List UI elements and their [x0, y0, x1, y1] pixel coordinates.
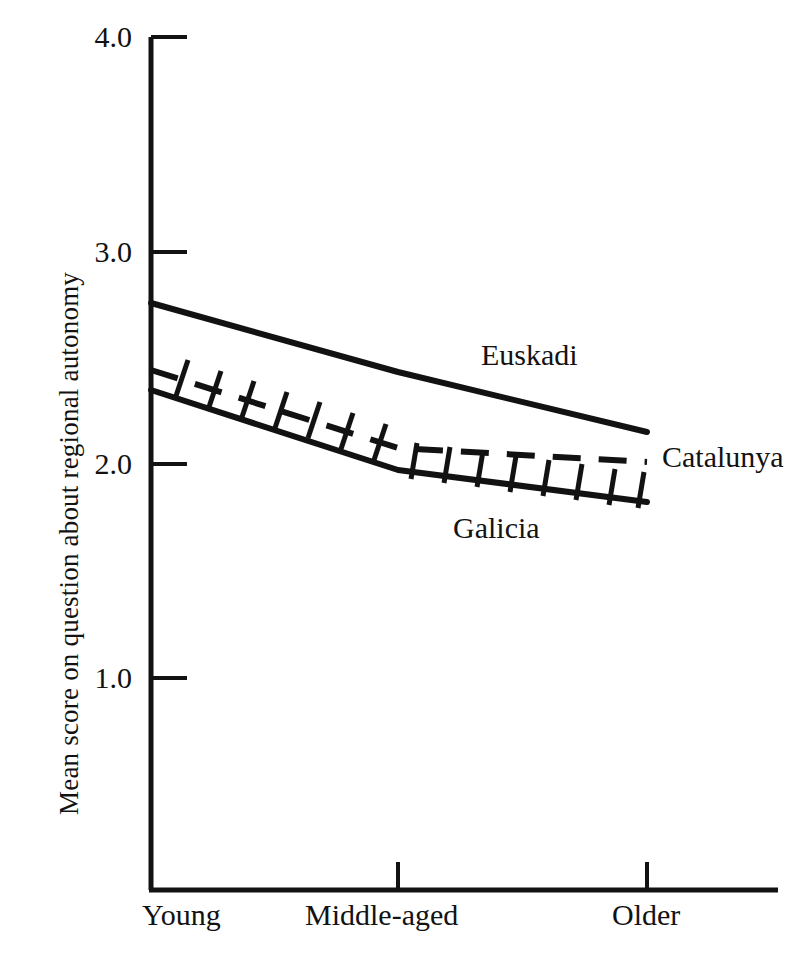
y-tick-label-3: 3.0 — [32, 237, 132, 267]
y-tick-label-2: 2.0 — [32, 449, 132, 479]
series-label-catalunya: Catalunya — [662, 441, 784, 473]
series-label-euskadi: Euskadi — [481, 339, 578, 371]
y-tick-label-4: 4.0 — [32, 22, 132, 52]
series-label-galicia: Galicia — [453, 512, 540, 544]
x-tick-label-young: Young — [142, 899, 221, 931]
x-tick-label-older: Older — [612, 899, 680, 931]
series-hatch-marks-galicia — [176, 360, 644, 508]
x-tick-label-middle-aged: Middle-aged — [305, 899, 458, 931]
series-line-galicia — [151, 390, 647, 502]
y-tick-label-1: 1.0 — [32, 663, 132, 693]
line-chart-figure: Mean score on question about regional au… — [0, 0, 807, 959]
y-axis-title: Mean score on question about regional au… — [46, 55, 92, 815]
